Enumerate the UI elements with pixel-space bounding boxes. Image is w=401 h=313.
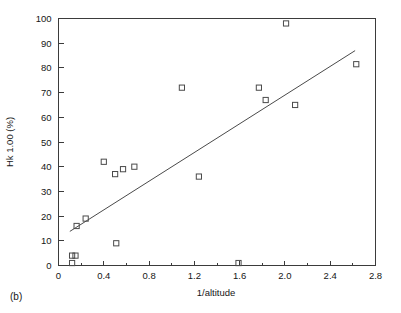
y-tick-label-7: 70	[41, 87, 52, 98]
panel-label: (b)	[10, 291, 22, 302]
data-point-marker	[236, 260, 241, 265]
x-axis-tick-labels: 00.40.81.21.62.02.42.8	[56, 270, 382, 281]
y-tick-label-3: 30	[41, 186, 52, 197]
trendline-segment	[70, 51, 355, 232]
x-tick-label-6: 2.4	[324, 270, 337, 281]
data-point-marker	[263, 97, 268, 102]
x-tick-label-0: 0	[56, 270, 61, 281]
plot-frame	[59, 19, 376, 266]
y-tick-label-2: 20	[41, 211, 52, 222]
x-tick-label-1: 0.4	[97, 270, 110, 281]
data-point-marker	[256, 85, 261, 90]
data-point-marker	[69, 260, 74, 265]
data-point-marker	[196, 174, 201, 179]
data-point-marker	[283, 21, 288, 26]
y-axis-tick-labels: 0102030405060708090100	[36, 13, 52, 271]
data-point-marker	[113, 172, 118, 177]
y-tick-label-6: 60	[41, 112, 52, 123]
y-tick-label-4: 40	[41, 161, 52, 172]
y-axis-title: Hk 1.00 (%)	[4, 117, 15, 167]
data-point-markers	[69, 21, 358, 266]
x-tick-label-4: 1.6	[233, 270, 246, 281]
data-point-marker	[179, 85, 184, 90]
axis-ticks	[59, 19, 376, 266]
y-tick-label-8: 80	[41, 62, 52, 73]
scatter-plot-figure: 00.40.81.21.62.02.42.8 01020304050607080…	[0, 0, 401, 313]
x-tick-label-2: 0.8	[142, 270, 155, 281]
data-point-marker	[101, 159, 106, 164]
y-tick-label-5: 50	[41, 137, 52, 148]
data-point-marker	[114, 241, 119, 246]
y-tick-label-1: 10	[41, 235, 52, 246]
y-tick-label-9: 90	[41, 38, 52, 49]
x-tick-label-3: 1.2	[188, 270, 201, 281]
data-point-marker	[293, 102, 298, 107]
regression-trendline	[70, 51, 355, 232]
x-tick-label-7: 2.8	[369, 270, 382, 281]
x-tick-label-5: 2.0	[278, 270, 291, 281]
plot-axes	[59, 19, 376, 266]
y-tick-label-0: 0	[46, 260, 51, 271]
plot-canvas: 00.40.81.21.62.02.42.8 01020304050607080…	[0, 0, 401, 313]
y-tick-label-10: 100	[36, 13, 52, 24]
data-point-marker	[354, 62, 359, 67]
data-point-marker	[120, 167, 125, 172]
x-axis-title: 1/altitude	[197, 287, 236, 298]
data-point-marker	[132, 164, 137, 169]
data-point-marker	[73, 253, 78, 258]
data-point-marker	[69, 253, 74, 258]
